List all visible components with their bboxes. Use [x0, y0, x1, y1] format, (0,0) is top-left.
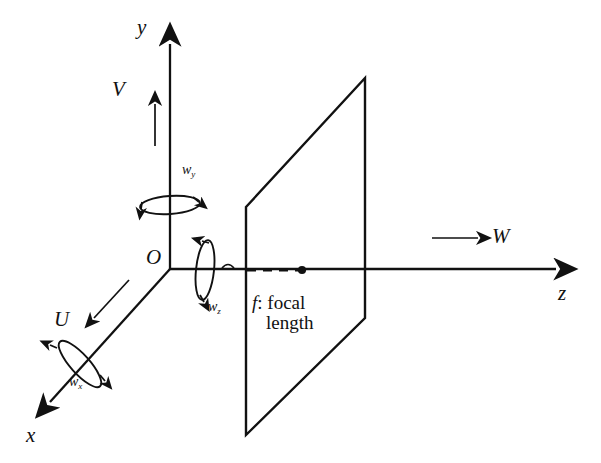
- v-vector-label: V: [112, 78, 125, 100]
- omega-x-label: wx: [69, 375, 82, 390]
- focal-text-line2: length: [252, 313, 314, 333]
- diagram-canvas: [0, 0, 601, 463]
- focal-text-line1: : focal: [257, 292, 305, 313]
- camera-coordinate-diagram: y z x O V W U wy wz wx f: focal length: [0, 0, 601, 463]
- w-vector-label: W: [492, 225, 510, 247]
- image-plane: [246, 78, 365, 435]
- omega-y-label: wy: [182, 163, 195, 178]
- z-axis-label: z: [558, 282, 566, 304]
- origin-label: O: [146, 246, 161, 268]
- focal-length-annotation: f: focal length: [252, 293, 314, 333]
- omega-x-base: w: [69, 374, 78, 389]
- u-vector-arrow: [94, 280, 129, 318]
- omega-z-label: wz: [208, 300, 221, 315]
- omega-z-subscript: z: [217, 306, 221, 316]
- omega-z-rotation-symbol: [193, 239, 217, 302]
- omega-z-base: w: [208, 299, 217, 314]
- x-axis-label: x: [26, 424, 35, 446]
- y-axis-label: y: [137, 16, 146, 38]
- omega-y-base: w: [182, 162, 191, 177]
- omega-y-subscript: y: [191, 169, 195, 179]
- x-axis: [50, 269, 170, 402]
- u-vector-label: U: [54, 308, 69, 330]
- axis-crossing-bump: [222, 265, 234, 269]
- omega-x-subscript: x: [78, 381, 82, 391]
